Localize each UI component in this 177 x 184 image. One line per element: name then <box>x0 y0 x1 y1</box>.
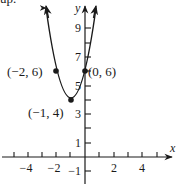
y-tick-label: 9 <box>75 21 81 35</box>
parabola-graph: −4 −2 2 4 −1 1 3 5 7 9 x y (−2, 6) (0, 6… <box>0 0 177 184</box>
x-tick-label: 2 <box>111 161 117 175</box>
vertex-label: (−1, 4) <box>28 105 64 120</box>
y-tick-label: 1 <box>75 136 81 150</box>
x-tick-label: 4 <box>139 161 145 175</box>
point-label: (−2, 6) <box>7 64 43 79</box>
y-axis-ticks <box>85 28 91 171</box>
y-tick-label: 7 <box>75 50 81 64</box>
x-tick-label: −4 <box>20 161 33 175</box>
curve-arrows <box>46 6 96 18</box>
point-neg2-6 <box>53 68 59 74</box>
point-0-6 <box>82 68 88 74</box>
point-label: (0, 6) <box>88 64 116 79</box>
parabola-curve <box>46 8 96 98</box>
x-axis <box>2 152 172 157</box>
y-tick-label: −1 <box>68 164 81 178</box>
vertex-point-neg1-4 <box>68 97 74 103</box>
y-tick-label: 3 <box>75 107 81 121</box>
x-tick-label: −2 <box>48 161 61 175</box>
y-axis-label: y <box>74 1 81 15</box>
x-axis-label: x <box>169 141 176 155</box>
